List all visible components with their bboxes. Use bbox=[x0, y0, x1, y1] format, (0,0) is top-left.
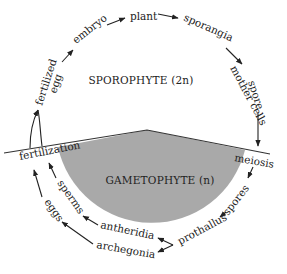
sporangia-label: sporangia bbox=[182, 11, 235, 43]
embryo-label: embryo bbox=[70, 11, 109, 45]
eggs-label: eggs bbox=[42, 196, 66, 223]
plant-label: plant bbox=[130, 10, 158, 22]
gametophyte-label: GAMETOPHYTE (n) bbox=[105, 174, 214, 186]
arrow-fertilization-curve bbox=[38, 110, 42, 146]
life-cycle-diagram: SPOROPHYTE (2n) GAMETOPHYTE (n) fertiliz… bbox=[0, 0, 287, 274]
sporophyte-label: SPOROPHYTE (2n) bbox=[88, 74, 193, 86]
arrow-antheridia-to-sperms bbox=[83, 216, 98, 225]
archegonia-label: archegonia bbox=[96, 238, 157, 260]
arrow-fertilization-to-egg bbox=[30, 110, 38, 148]
arrow-archegonia-to-eggs bbox=[62, 222, 93, 244]
arrow-meiosis-to-spores bbox=[248, 167, 253, 178]
arrow-sporangia-to-smc bbox=[226, 48, 242, 64]
arrow-prothallus-to-antheridia bbox=[158, 238, 173, 245]
arrow-sperms-to-fertilization bbox=[49, 163, 56, 178]
arrow-egg-to-embryo bbox=[62, 50, 73, 62]
arrow-prothallus-to-archegonia bbox=[158, 245, 173, 252]
arrow-eggs-to-fertilization bbox=[34, 170, 42, 197]
arrow-embryo-to-plant bbox=[107, 18, 125, 25]
arrow-plant-to-sporangia bbox=[158, 14, 178, 18]
